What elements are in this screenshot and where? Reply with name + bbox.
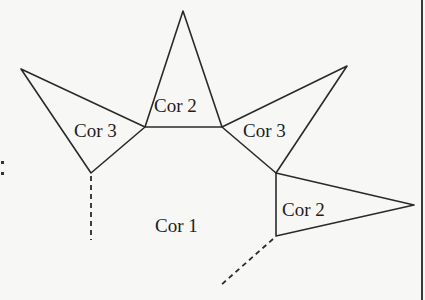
coloring-diagram: Cor 2 Cor 3 Cor 3 Cor 1 Cor 2 (0, 0, 425, 300)
label-right-upper-triangle: Cor 3 (243, 120, 286, 141)
dashed-boundary-diagonal (221, 239, 273, 285)
label-left-triangle: Cor 3 (74, 120, 117, 141)
label-top-triangle: Cor 2 (154, 95, 197, 116)
marker-dot-top (1, 161, 4, 164)
label-right-lower-triangle: Cor 2 (282, 199, 325, 220)
label-center-region: Cor 1 (155, 215, 198, 236)
marker-dot-bottom (1, 172, 4, 175)
